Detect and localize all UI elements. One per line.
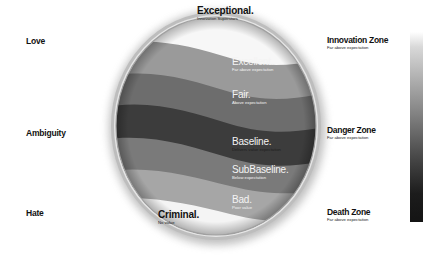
zone-subtitle-danger: Far above expectation (327, 136, 376, 140)
gradient-scale-bar (410, 32, 423, 222)
band-title-fair: Fair. (232, 90, 266, 100)
zone-title-death: Death Zone (327, 208, 370, 217)
band-subtitle-baseline: Delivers value expectation (232, 148, 281, 152)
band-title-baseline: Baseline. (232, 137, 281, 147)
zone-subtitle-death: Far above expectation (327, 218, 370, 222)
band-subtitle-criminal: No value (158, 221, 199, 225)
band-title-subbaseline: SubBaseline. (232, 165, 289, 175)
band-label-subbaseline: SubBaseline. Below expectation (232, 165, 289, 180)
band-label-fair: Fair. Above expectation (232, 90, 266, 105)
band-label-exceptional: Exceptional. Innovation Superstars (197, 6, 254, 21)
band-subtitle-fair: Above expectation (232, 101, 266, 105)
band-subtitle-subbaseline: Below expectation (232, 176, 289, 180)
band-label-criminal: Criminal. No value (158, 210, 199, 225)
band-subtitle-excellent: Far above expectation (232, 68, 273, 72)
band-title-bad: Bad. (232, 195, 252, 205)
zone-title-innovation: Innovation Zone (327, 36, 388, 45)
band-label-bad: Bad. Poor value (232, 195, 252, 210)
band-subtitle-exceptional: Innovation Superstars (197, 17, 254, 21)
band-title-exceptional: Exceptional. (197, 6, 254, 16)
band-subtitle-bad: Poor value (232, 206, 252, 210)
band-label-baseline: Baseline. Delivers value expectation (232, 137, 281, 152)
zone-title-danger: Danger Zone (327, 126, 376, 135)
band-label-excellent: Excellent. Far above expectation (232, 57, 273, 72)
zone-danger: Danger Zone Far above expectation (327, 126, 376, 140)
zone-death: Death Zone Far above expectation (327, 208, 370, 222)
zone-subtitle-innovation: Far above expectation (327, 46, 388, 50)
zone-innovation: Innovation Zone Far above expectation (327, 36, 388, 50)
band-title-excellent: Excellent. (232, 57, 273, 67)
band-title-criminal: Criminal. (158, 210, 199, 220)
